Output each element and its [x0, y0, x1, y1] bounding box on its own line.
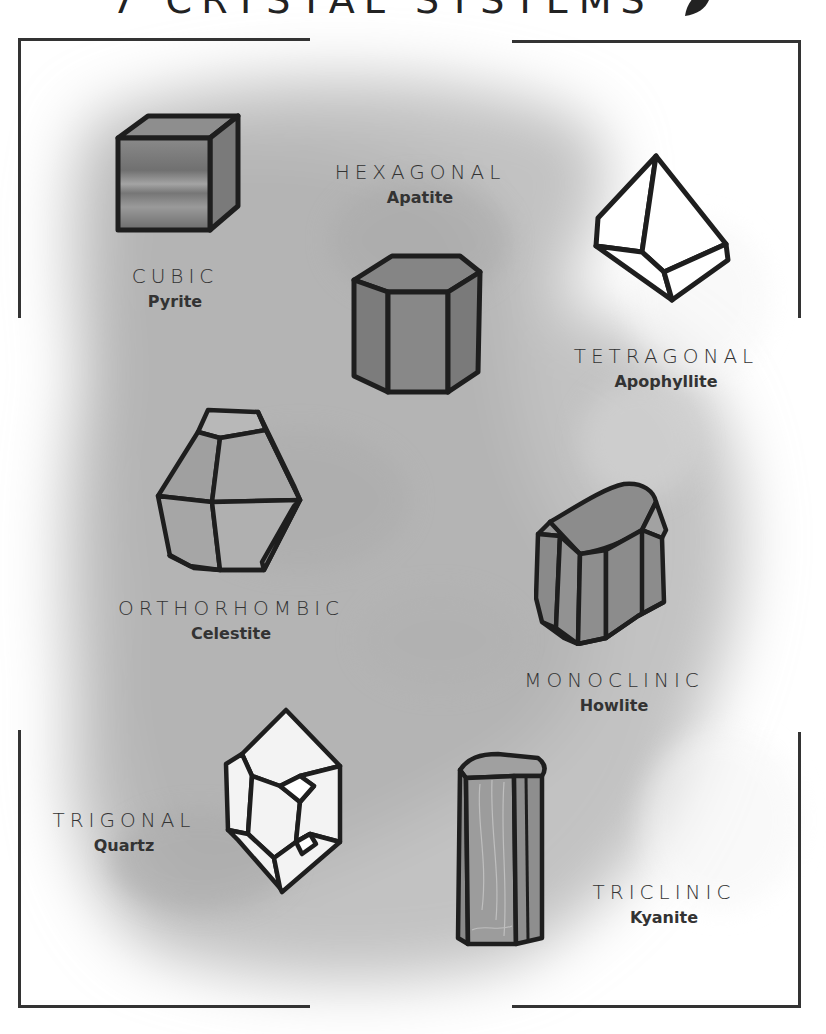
label-monoclinic: MONOCLINIC Howlite — [494, 668, 734, 715]
mineral-name: Apatite — [310, 188, 530, 207]
system-name: TETRAGONAL — [548, 344, 784, 368]
label-tetragonal: TETRAGONAL Apophyllite — [548, 344, 784, 391]
frame-bracket-bottom-right — [512, 732, 801, 1008]
mineral-name: Apophyllite — [548, 372, 784, 391]
label-trigonal: TRIGONAL Quartz — [38, 808, 210, 855]
monoclinic-crystal-icon — [534, 478, 670, 646]
title-text: 7 CRYSTAL SYSTEMS — [111, 0, 653, 22]
orthorhombic-crystal-icon — [154, 406, 308, 578]
trigonal-crystal-icon — [222, 706, 350, 896]
label-hexagonal: HEXAGONAL Apatite — [310, 160, 530, 207]
system-name: TRICLINIC — [574, 880, 754, 904]
mineral-name: Quartz — [38, 836, 210, 855]
label-cubic: CUBIC Pyrite — [100, 264, 250, 311]
system-name: CUBIC — [100, 264, 250, 288]
system-name: TRIGONAL — [38, 808, 210, 832]
system-name: ORTHORHOMBIC — [92, 596, 370, 620]
mineral-name: Kyanite — [574, 908, 754, 927]
mineral-name: Howlite — [494, 696, 734, 715]
page-title: 7 CRYSTAL SYSTEMS — [0, 0, 826, 22]
mineral-name: Celestite — [92, 624, 370, 643]
system-name: HEXAGONAL — [310, 160, 530, 184]
triclinic-crystal-icon — [454, 750, 550, 948]
gem-leaf-icon — [681, 0, 715, 20]
tetragonal-bipyramid-crystal-icon — [592, 150, 732, 306]
label-triclinic: TRICLINIC Kyanite — [574, 880, 754, 927]
system-name: MONOCLINIC — [494, 668, 734, 692]
label-orthorhombic: ORTHORHOMBIC Celestite — [92, 596, 370, 643]
mineral-name: Pyrite — [100, 292, 250, 311]
hexagonal-prism-crystal-icon — [348, 246, 484, 396]
cube-crystal-icon — [112, 110, 242, 236]
